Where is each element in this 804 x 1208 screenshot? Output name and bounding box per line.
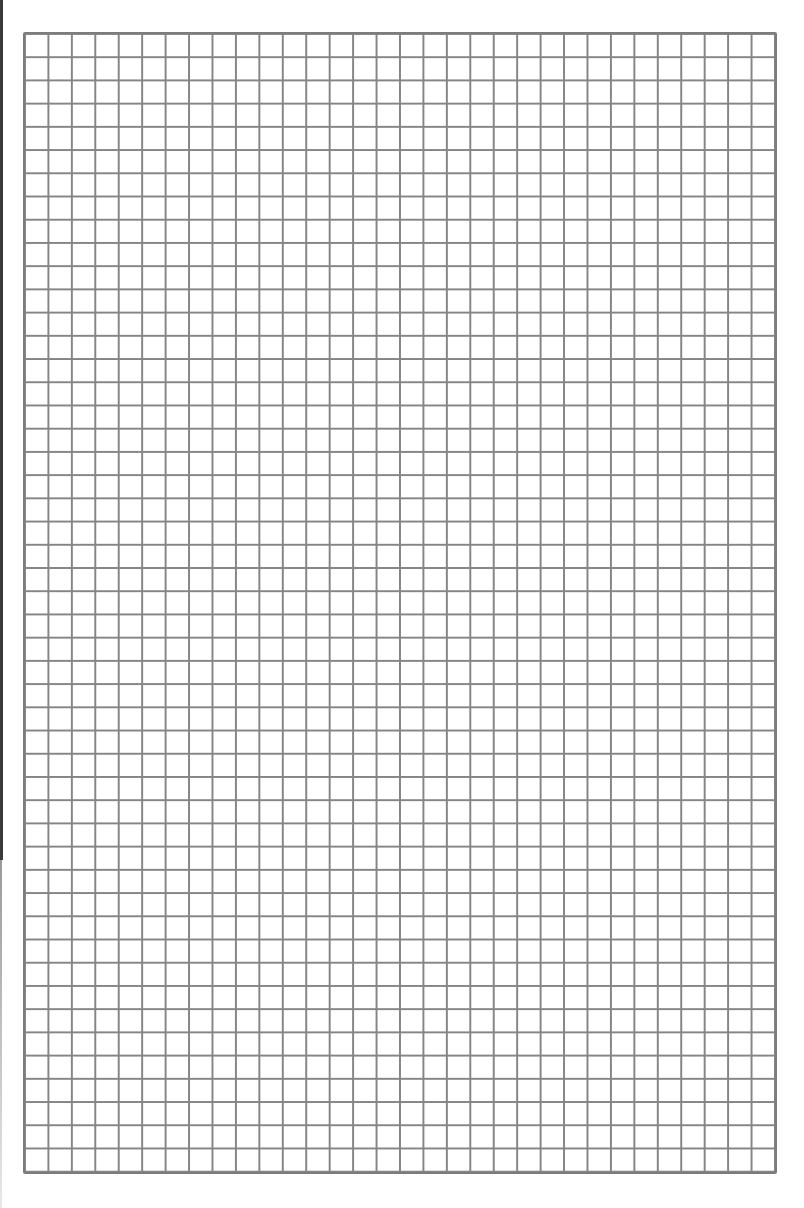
page-edge-shadow [0,860,2,1208]
graph-paper-grid [23,32,777,1174]
page-edge-line [0,0,3,860]
